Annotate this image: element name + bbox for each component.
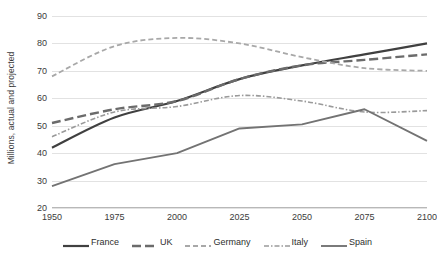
legend-label: France [91,237,119,247]
legend-swatch-uk [132,237,158,247]
x-axis-tick-label: 1950 [42,212,62,222]
legend-label: Italy [292,237,309,247]
legend-swatch-spain [321,237,347,247]
x-axis-tick-labels: 1950197520002025205020752100 [52,212,427,228]
y-axis-tick-label: 50 [37,121,47,131]
y-axis-tick-label: 90 [37,11,47,21]
plot-area [52,16,427,208]
y-axis-tick-label: 80 [37,38,47,48]
y-axis-tick-label: 40 [37,148,47,158]
series-line-italy [52,95,427,136]
legend-swatch-germany [185,237,211,247]
legend-item-france[interactable]: France [63,237,119,247]
gridline [52,208,427,209]
y-axis-tick-label: 30 [37,176,47,186]
y-axis-tick-labels: 2030405060708090 [20,0,50,215]
legend-item-spain[interactable]: Spain [321,237,372,247]
y-axis-title: Millions, actual and projected [2,0,20,215]
series-lines [52,16,427,208]
legend-swatch-italy [264,237,290,247]
y-axis-tick-label: 60 [37,93,47,103]
x-axis-tick-label: 2075 [354,212,374,222]
legend-swatch-france [63,237,89,247]
legend-label: UK [160,237,173,247]
x-axis-tick-label: 2050 [292,212,312,222]
x-axis-tick-label: 1975 [104,212,124,222]
legend-label: Germany [213,237,250,247]
legend-item-germany[interactable]: Germany [185,237,250,247]
legend-item-italy[interactable]: Italy [264,237,309,247]
y-axis-title-text: Millions, actual and projected [6,51,16,164]
x-axis-tick-label: 2025 [229,212,249,222]
series-line-germany [52,38,427,76]
legend-label: Spain [349,237,372,247]
x-axis-tick-label: 2100 [417,212,437,222]
chart-legend: FranceUKGermanyItalySpain [0,234,435,250]
y-axis-tick-label: 70 [37,66,47,76]
legend-item-uk[interactable]: UK [132,237,173,247]
x-axis-tick-label: 2000 [167,212,187,222]
